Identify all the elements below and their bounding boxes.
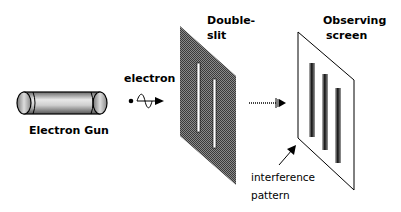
- slit-opening: [213, 79, 216, 148]
- pattern-label-1: interference: [251, 171, 315, 183]
- double-slit-label-1: Double-: [207, 14, 255, 27]
- electron-label: electron: [124, 72, 175, 85]
- observing-screen: [298, 32, 354, 190]
- electron-gun: [17, 92, 107, 114]
- electron-gun-label: Electron Gun: [29, 124, 109, 137]
- screen-label-1: Observing: [323, 14, 386, 27]
- propagation-arrow-icon: [249, 98, 286, 108]
- double-slit-label-2: slit: [207, 29, 226, 42]
- slit-opening: [197, 63, 200, 132]
- double-slit-panel: [180, 26, 236, 185]
- screen-label-2: screen: [326, 29, 367, 42]
- electron-wave-icon: [129, 94, 164, 108]
- double-slit-diagram: Electron Gun electron Double- slit Obser…: [0, 0, 401, 212]
- pattern-pointer-arrow-icon: [279, 145, 296, 165]
- pattern-label-2: pattern: [251, 189, 290, 201]
